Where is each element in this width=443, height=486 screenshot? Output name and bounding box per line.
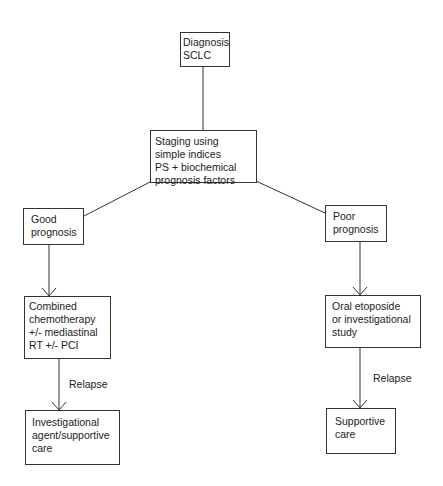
node-combined-chemotherapy: Combined chemotherapy +/- mediastinal RT…	[24, 296, 111, 359]
node-poor-prognosis: Poor prognosis	[325, 205, 387, 242]
node-diagnosis: Diagnosis SCLC	[180, 32, 230, 67]
node-oral-etoposide: Oral etoposide or investigational study	[325, 295, 421, 348]
edge-staging-poor	[256, 181, 325, 213]
edge-label-relapse-right: Relapse	[373, 372, 412, 385]
node-good-prognosis: Good prognosis	[23, 208, 84, 245]
edge-staging-good	[84, 182, 150, 216]
edge-label-relapse-left: Relapse	[69, 378, 108, 391]
node-staging: Staging using simple indices PS + bioche…	[150, 130, 257, 183]
node-supportive-care: Supportive care	[326, 408, 396, 454]
node-investigational-agent: Investigational agent/supportive care	[25, 410, 120, 465]
